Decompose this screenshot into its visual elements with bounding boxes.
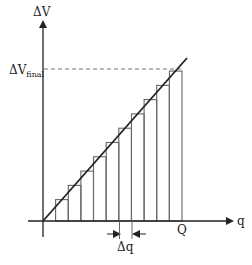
final-value-label-sub: final: [26, 70, 44, 79]
step-bar: [106, 143, 119, 222]
charge-voltage-diagram: ΔV q ΔVfinal Q Δq: [0, 0, 252, 265]
step-bar: [144, 100, 157, 221]
step-bar: [169, 71, 182, 221]
delta-q-label: Δq: [117, 240, 134, 254]
final-value-label-main: ΔV: [9, 63, 27, 77]
final-value-label: ΔVfinal: [9, 63, 45, 79]
step-bar: [157, 85, 170, 221]
step-bar: [94, 157, 107, 221]
x-axis-label: q: [237, 214, 245, 228]
step-bar: [119, 128, 132, 221]
q-end-label: Q: [177, 223, 187, 237]
step-bars: [56, 71, 182, 221]
step-bar: [132, 114, 145, 221]
linear-relation-line: [43, 58, 187, 221]
step-bar: [56, 200, 69, 221]
y-axis-label: ΔV: [33, 5, 51, 19]
step-bar: [81, 171, 94, 221]
